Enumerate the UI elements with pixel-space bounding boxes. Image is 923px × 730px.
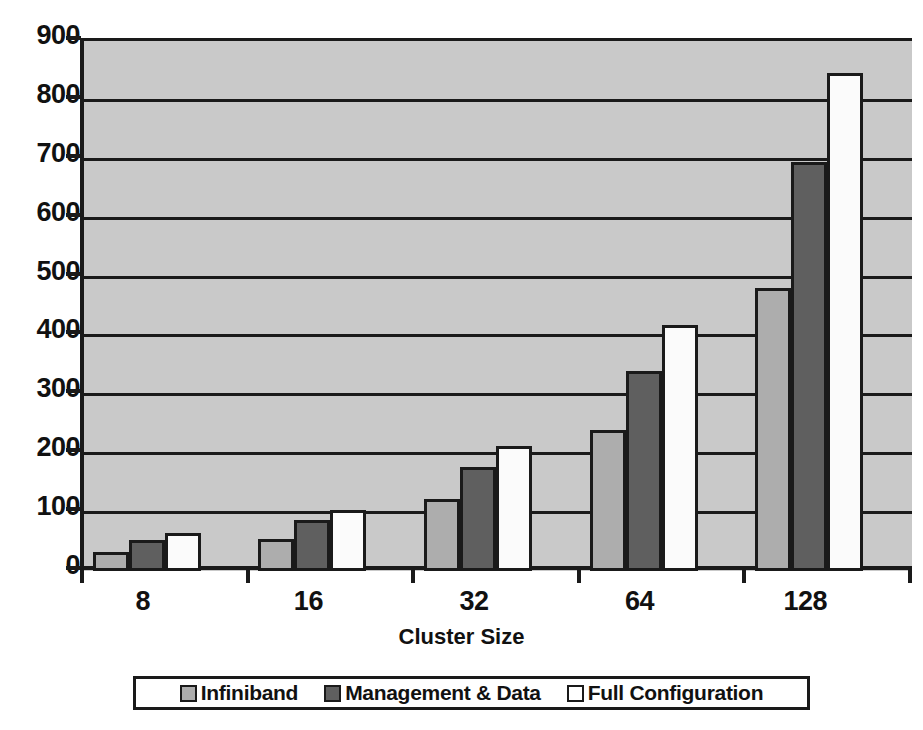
y-axis-tick-mark — [66, 389, 81, 393]
legend-swatch-icon — [567, 685, 584, 702]
legend-label: Full Configuration — [588, 681, 763, 705]
bar-chart: 9008007006005004003002001000 8163264128 … — [0, 0, 923, 730]
y-axis-tick-mark — [66, 448, 81, 452]
bar — [294, 520, 330, 571]
y-axis: 9008007006005004003002001000 — [0, 0, 80, 730]
x-axis-tick-label: 128 — [745, 586, 865, 617]
legend-label: Management & Data — [345, 681, 541, 705]
bars-layer — [84, 41, 912, 571]
x-axis-tick-label: 8 — [83, 586, 203, 617]
x-axis-tick-mark — [246, 570, 250, 583]
legend-item-full-configuration: Full Configuration — [567, 681, 763, 705]
x-axis-tick-label: 64 — [580, 586, 700, 617]
y-axis-tick-mark — [66, 272, 81, 276]
bar — [258, 539, 294, 571]
legend-label: Infiniband — [201, 681, 298, 705]
bar — [626, 371, 662, 571]
bar — [791, 162, 827, 571]
bar — [755, 288, 791, 571]
bar — [496, 446, 532, 571]
bar — [460, 467, 496, 571]
x-axis-tick-mark — [577, 570, 581, 583]
bar — [662, 325, 698, 571]
legend-swatch-icon — [324, 685, 341, 702]
chart-legend: Infiniband Management & Data Full Config… — [133, 676, 810, 710]
x-axis-tick-label: 16 — [248, 586, 368, 617]
bar — [93, 552, 129, 571]
y-axis-tick-mark — [66, 330, 81, 334]
bar — [165, 533, 201, 571]
legend-swatch-icon — [180, 685, 197, 702]
legend-item-management-data: Management & Data — [324, 681, 541, 705]
plot-area — [80, 38, 912, 571]
y-axis-tick-mark — [66, 36, 81, 40]
x-axis-tick-label: 32 — [414, 586, 534, 617]
x-axis-tick-mark — [80, 570, 84, 583]
bar — [129, 540, 165, 571]
bar — [424, 499, 460, 571]
y-axis-tick-mark — [66, 213, 81, 217]
y-axis-tick-mark — [66, 566, 81, 570]
y-axis-tick-mark — [66, 95, 81, 99]
legend-item-infiniband: Infiniband — [180, 681, 298, 705]
bar — [827, 73, 863, 571]
x-axis-tick-mark — [411, 570, 415, 583]
x-axis-title: Cluster Size — [0, 624, 923, 650]
y-axis-tick-mark — [66, 154, 81, 158]
bar — [590, 430, 626, 571]
y-axis-tick-mark — [66, 507, 81, 511]
bar — [330, 510, 366, 571]
x-axis-tick-mark — [908, 570, 912, 583]
x-axis-tick-mark — [742, 570, 746, 583]
